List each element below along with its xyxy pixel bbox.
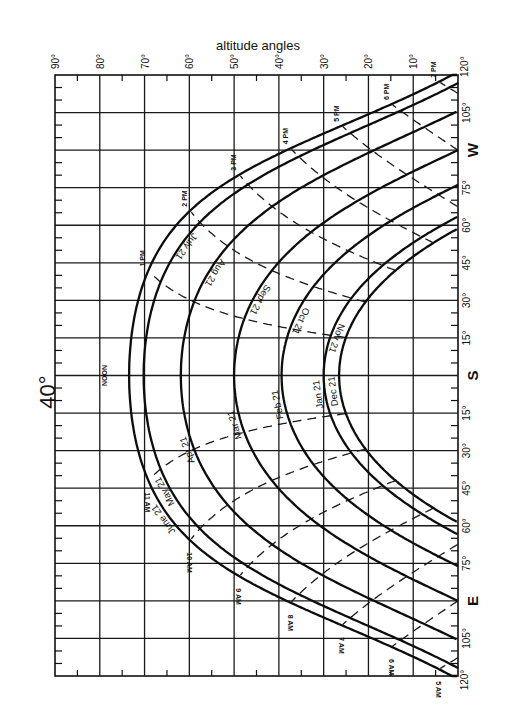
altitude-tick-label: 90° bbox=[50, 54, 61, 69]
hour-label: NOON bbox=[101, 365, 108, 386]
altitude-axis-title: altitude angles bbox=[216, 38, 300, 53]
hour-label: 7 AM bbox=[338, 637, 345, 654]
hour-label: 6 PM bbox=[383, 84, 390, 101]
bearing-tick-label: 75° bbox=[461, 556, 472, 571]
hour-line bbox=[240, 481, 395, 576]
hour-line bbox=[292, 508, 434, 601]
bearing-tick-label: 45° bbox=[461, 481, 472, 496]
altitude-tick-label: 10° bbox=[408, 54, 419, 69]
hour-label: 3 PM bbox=[230, 154, 237, 171]
altitude-tick-label: 80° bbox=[95, 54, 106, 69]
chart-title: 40° bbox=[35, 375, 60, 408]
hour-label: 2 PM bbox=[181, 190, 188, 207]
hour-label: 5 PM bbox=[333, 105, 340, 122]
hour-label: 5 AM bbox=[435, 681, 442, 698]
bearing-tick-label: 60° bbox=[461, 218, 472, 233]
compass-direction-label: S bbox=[464, 370, 481, 380]
bearing-tick-label: 60° bbox=[461, 518, 472, 533]
bearing-tick-label: 15° bbox=[461, 330, 472, 345]
altitude-tick-label: 40° bbox=[274, 54, 285, 69]
hour-label: 6 AM bbox=[388, 659, 395, 676]
hour-label: 8 AM bbox=[287, 615, 294, 632]
compass-direction-label: W bbox=[464, 142, 481, 157]
bearing-tick-label: 15° bbox=[461, 406, 472, 421]
sun-path-chart: 5 AM6 AM7 AM8 AM9 AM10 AM11 AMNOON1 PM2 … bbox=[0, 0, 505, 728]
bearing-tick-label: 75° bbox=[461, 180, 472, 195]
axes: 90°80°70°60°50°40°30°20°10°120°105°W75°6… bbox=[50, 54, 481, 690]
altitude-tick-label: 70° bbox=[140, 54, 151, 69]
hour-label: 1 PM bbox=[139, 250, 146, 267]
hour-label: 4 PM bbox=[282, 128, 289, 145]
hour-label: 9 AM bbox=[235, 588, 242, 605]
hour-line bbox=[240, 176, 395, 271]
hour-label: 7 PM bbox=[430, 61, 437, 78]
hour-line bbox=[292, 149, 434, 243]
compass-direction-label: E bbox=[464, 596, 481, 606]
altitude-tick-label: 30° bbox=[319, 54, 330, 69]
hour-label: 10 AM bbox=[186, 552, 193, 573]
bearing-tick-label: 120° bbox=[459, 670, 470, 691]
altitude-tick-label: 50° bbox=[229, 54, 240, 69]
curve-label: Dec 21 bbox=[325, 376, 340, 407]
altitude-tick-label: 60° bbox=[184, 54, 195, 69]
altitude-tick-label: 120° bbox=[459, 56, 470, 77]
altitude-tick-label: 20° bbox=[363, 54, 374, 69]
bearing-tick-label: 30° bbox=[461, 443, 472, 458]
bearing-tick-label: 105° bbox=[461, 628, 472, 649]
bearing-tick-label: 105° bbox=[461, 102, 472, 123]
bearing-tick-label: 30° bbox=[461, 293, 472, 308]
bearing-tick-label: 45° bbox=[461, 255, 472, 270]
